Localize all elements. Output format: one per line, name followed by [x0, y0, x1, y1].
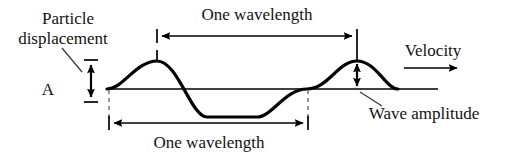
wave-diagram: Particle displacement A One wavelength O… [0, 0, 508, 154]
particle-label-line1: Particle [42, 9, 94, 28]
particle-displacement-leader-line [62, 48, 82, 72]
velocity-label: Velocity [405, 41, 462, 60]
diagram-canvas: Particle displacement A One wavelength O… [0, 0, 508, 154]
wavelength-bottom-label: One wavelength [154, 133, 265, 152]
amplitude-symbol-label: A [42, 80, 55, 99]
wavelength-top-label: One wavelength [202, 5, 313, 24]
wave-amplitude-label: Wave amplitude [369, 104, 480, 123]
particle-label-line2: displacement [18, 29, 108, 48]
